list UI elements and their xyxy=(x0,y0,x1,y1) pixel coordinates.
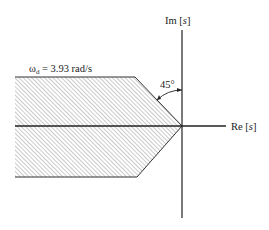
real-axis-label: Re [s] xyxy=(231,121,256,132)
s-plane-diagram: Im [s] Re [s] ωd = 3.93 rad/s 45° xyxy=(0,0,269,230)
arc-arrowhead-right xyxy=(177,88,182,92)
imaginary-axis-label: Im [s] xyxy=(165,15,190,26)
allowed-pole-region xyxy=(15,77,182,177)
damped-frequency-label: ωd = 3.93 rad/s xyxy=(29,63,92,76)
angle-label: 45° xyxy=(160,79,175,90)
